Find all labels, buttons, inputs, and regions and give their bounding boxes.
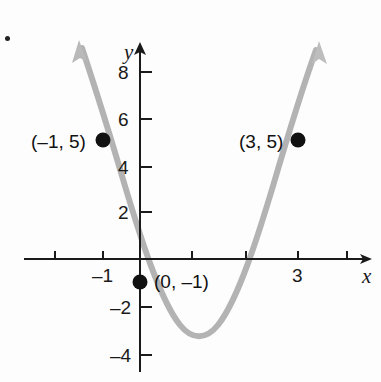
x-axis-label: x [362, 266, 371, 287]
y-tick-label--2: –2 [110, 298, 131, 317]
x-axis [24, 251, 372, 264]
y-axis [134, 42, 152, 372]
coordinate-plane-svg [0, 0, 381, 382]
point-marker-0-neg1 [133, 275, 148, 290]
point-marker-neg1-5 [96, 133, 111, 148]
y-tick-label-4: 4 [118, 158, 129, 177]
y-axis-label: y [124, 42, 133, 63]
y-tick-label-6: 6 [118, 110, 129, 129]
point-label-0-neg1: (0, –1) [154, 272, 209, 291]
point-label-neg1-5: (–1, 5) [31, 132, 86, 151]
parabola-figure: 8 6 4 2 –2 –4 –1 3 y x (–1, 5) (0, –1) (… [0, 0, 381, 382]
x-tick-label-3: 3 [292, 266, 303, 285]
x-tick-label--1: –1 [92, 266, 113, 285]
y-tick-label-2: 2 [118, 203, 129, 222]
y-tick-label--4: –4 [110, 346, 131, 365]
point-label-3-5: (3, 5) [239, 132, 283, 151]
point-marker-3-5 [291, 133, 306, 148]
y-tick-label-8: 8 [118, 63, 129, 82]
